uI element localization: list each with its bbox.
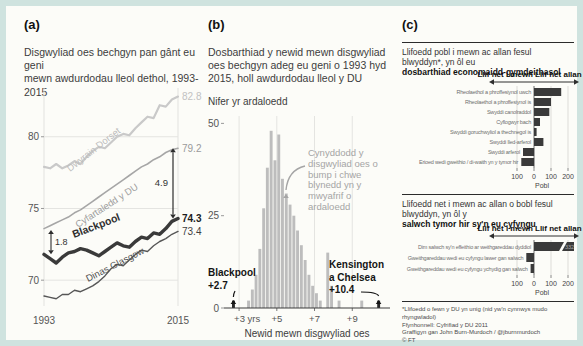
life-expectancy-line-chart: 80757019932015Dwyrain Dorset82.8Cyfartal… [24, 78, 204, 330]
x-tick-label: 200 [562, 280, 574, 287]
histogram-bar [292, 216, 295, 308]
panel-c: (c) Llifoedd pobl i mewn ac allan fesul … [402, 18, 574, 31]
histogram-bar [262, 208, 265, 308]
y-tick-label: 50 [208, 118, 220, 129]
flow-category-label: Rheolaethol a phroffesiynol is [465, 99, 532, 105]
illness-title-normal: Llifoedd net i mewn ac allan o bobl fesu… [402, 199, 553, 219]
histogram-bar [258, 249, 261, 308]
panel-b-title-line3: 2015, holl awdurdodau lleol y DU [208, 72, 362, 84]
histogram-bar [270, 131, 273, 308]
series-end-value: 79.2 [182, 143, 202, 154]
annotation-text: ardaloedd [308, 201, 350, 212]
flow-bar [534, 98, 551, 106]
x-tick-label: +3 yrs [234, 313, 260, 324]
flow-category-label: Gweithgareddau wedi eu cyfyngu lawer gan… [408, 255, 524, 261]
footnote-line2: Ffynhonnell: Cyfrifiad y DU 2011 [402, 322, 488, 328]
panel-b-title: Dosbarthiad y newid mewn disgwyliadoes b… [208, 46, 386, 86]
panel-c-label: (c) [402, 18, 574, 31]
panel-b: (b) Dosbarthiad y newid mewn disgwyliado… [208, 18, 398, 31]
figure-frame: (a) Disgwyliad oes bechgyn pan gânt eu g… [0, 0, 583, 346]
panel-c-bottom-divider [402, 301, 574, 302]
panel-b-label: (b) [208, 18, 398, 31]
y-tick-label: 70 [28, 275, 40, 286]
flow-out-label: Llif net allan [535, 70, 582, 79]
nssec-flow-chart: Llif net i mewnLlif net allan1000100200R… [402, 68, 574, 190]
annotation-text: bump i chwe [308, 169, 361, 180]
panel-a-label: (a) [24, 18, 204, 31]
panel-a-title-line1: Disgwyliad oes bechgyn pan gânt eu geni [24, 46, 195, 71]
x-tick-label: 2015 [167, 315, 190, 326]
annotation-text: mwyafrif o [308, 190, 351, 201]
flow-bar [531, 264, 534, 273]
callout-kensington: Kensington [329, 259, 384, 270]
flow-category-label: Swyddi canolraddol [487, 109, 531, 115]
series-end-value: 74.3 [182, 213, 202, 224]
flow-category-label: Cyflogwyr bach [496, 119, 531, 125]
histogram-bar [338, 301, 341, 308]
flow-category-label: Swyddi lled-arferol [490, 139, 531, 145]
flow-bar-broken [534, 242, 564, 251]
x-tick-label: 200 [562, 173, 574, 180]
x-tick-label: +9 [347, 313, 358, 324]
flow-category-label: Erioed wedi gweithio / di-waith yn y tym… [419, 159, 519, 165]
histogram-bar [274, 160, 277, 308]
callout-kensington: a Chelsea [329, 272, 376, 283]
footnote: *Llifoedd o fewn y DU yn unig (nid yw'n … [402, 306, 574, 345]
flow-category-label: Swyddi arferol [488, 149, 520, 155]
panel-b-title-line2: oes bechgyn adeg eu geni o 1993 hyd [208, 59, 386, 71]
histogram-bar [296, 231, 299, 309]
figure-canvas: (a) Disgwyliad oes bechgyn pan gânt eu g… [6, 6, 577, 340]
flow-bar [534, 108, 549, 116]
flow-bar [526, 253, 534, 262]
panel-a: (a) Disgwyliad oes bechgyn pan gânt eu g… [24, 18, 204, 31]
histogram-bar [360, 301, 363, 308]
distribution-histogram: 50250Cynyddodd ydisgwyliad oes obump i c… [208, 110, 398, 340]
flow-bar [534, 88, 561, 96]
histogram-bar [319, 301, 322, 308]
histogram-bar [300, 245, 303, 308]
y-tick-label: 75 [28, 203, 40, 214]
series-end-value: 82.8 [182, 91, 202, 102]
flow-in-label: Llif net i mewn [477, 224, 533, 233]
y-tick-label: 80 [28, 131, 40, 142]
footnote-line3: Graffigyn gan John Burn-Murdoch / @jburn… [402, 329, 540, 335]
histogram-bar [277, 135, 280, 309]
y-tick-label: 25 [208, 210, 220, 221]
flow-out-label: Llif net allan [535, 224, 582, 233]
gap-annotation: 1.8 [55, 237, 68, 247]
series-label: Dinas Glasgow [84, 245, 146, 284]
annotation-text: blynedd yn y [308, 179, 362, 190]
flow-bar [534, 118, 540, 126]
x-tick-label: 100 [511, 280, 523, 287]
illness-flow-chart: Llif net i mewnLlif net allan10001002003… [402, 222, 574, 296]
panel-c-top-divider [402, 42, 574, 43]
histogram-bar [304, 260, 307, 308]
panel-b-title-line1: Dosbarthiad y newid mewn disgwyliad [208, 46, 385, 58]
x-tick-label: 0 [532, 280, 536, 287]
histogram-bar [266, 168, 269, 308]
flow-category-label: Dim salwch sy'n effeithio ar weithgaredd… [418, 244, 531, 250]
flow-bar [534, 128, 537, 136]
x-tick-label: 1993 [33, 315, 56, 326]
flow-category-label: Swyddi goruchwyliol a thechnegol is [450, 129, 531, 135]
footnote-line4: © FT [402, 337, 415, 343]
histogram-bar [289, 205, 292, 308]
histogram-y-axis-label: Nifer yr ardaloedd [208, 96, 287, 107]
x-tick-label: +7 [309, 313, 320, 324]
series-end-value: 73.4 [182, 226, 202, 237]
x-tick-label: +5 [271, 313, 282, 324]
flow-bar [523, 148, 534, 156]
callout-kensington: +10.4 [329, 284, 355, 295]
flow-bar [534, 138, 543, 146]
x-tick-label: 100 [511, 173, 523, 180]
histogram-bar [315, 293, 318, 308]
x-axis-title: Newid mewn disgwyliad oes [244, 328, 369, 339]
callout-blackpool: +2.7 [208, 280, 228, 291]
footnote-line1: *Llifoedd o fewn y DU yn unig (nid yw'n … [402, 306, 547, 320]
flow-bar [521, 158, 534, 166]
x-tick-label: 100 [545, 173, 557, 180]
series-label: Dwyrain Dorset [64, 125, 122, 174]
flow-category-label: Gweithgareddau wedi eu cyfyngu ychydig g… [407, 266, 528, 272]
flow-category-label: Rheolaethol a phroffesiynol uwch [456, 89, 531, 95]
panel-c-mid-divider [402, 194, 574, 195]
